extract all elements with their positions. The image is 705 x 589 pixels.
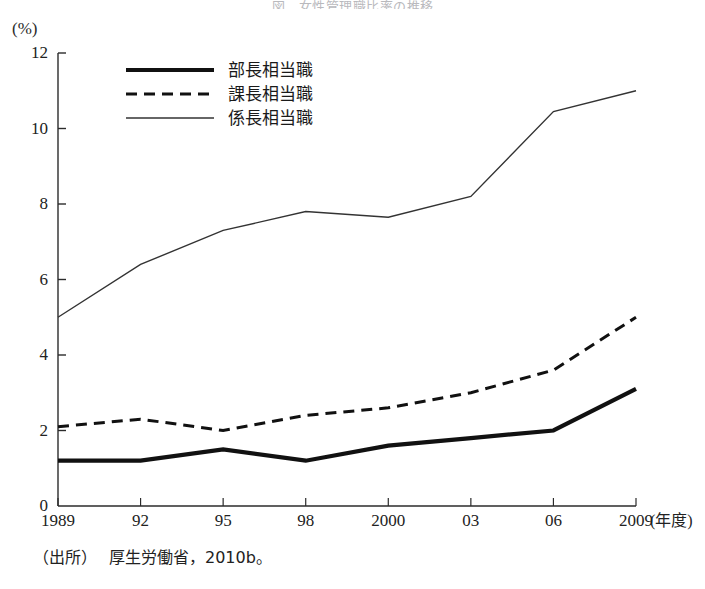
series-line xyxy=(58,389,636,461)
x-axis-ticks xyxy=(58,498,636,506)
legend-swatch-icon xyxy=(126,111,214,125)
legend-label: 部長相当職 xyxy=(228,60,313,80)
figure-container: 図 女性管理職比率の推移 (%) 024681012 1989929598200… xyxy=(0,0,705,589)
y-tick-label: 4 xyxy=(8,346,48,363)
legend-item: 課長相当職 xyxy=(126,82,366,106)
chart-series-layer xyxy=(58,91,636,461)
x-tick-label: 2009 xyxy=(619,512,653,529)
y-tick-label: 12 xyxy=(8,44,48,61)
x-tick-label: 98 xyxy=(297,512,314,529)
x-axis-unit-label: (年度) xyxy=(650,512,693,529)
y-tick-label: 8 xyxy=(8,195,48,212)
x-tick-label: 03 xyxy=(462,512,479,529)
y-axis-ticks xyxy=(58,53,66,431)
y-tick-label: 2 xyxy=(8,422,48,439)
chart-legend: 部長相当職課長相当職係長相当職 xyxy=(126,58,366,130)
legend-label: 係長相当職 xyxy=(228,108,313,128)
x-tick-label: 06 xyxy=(545,512,562,529)
legend-item: 係長相当職 xyxy=(126,106,366,130)
source-label: （出所） xyxy=(33,548,97,567)
x-tick-label: 95 xyxy=(215,512,232,529)
source-text: 厚生労働省，2010b。 xyxy=(109,548,272,567)
y-tick-label: 10 xyxy=(8,120,48,137)
x-tick-label: 2000 xyxy=(371,512,405,529)
x-tick-label: 92 xyxy=(132,512,149,529)
legend-label: 課長相当職 xyxy=(228,84,313,104)
x-tick-label: 1989 xyxy=(41,512,75,529)
legend-item: 部長相当職 xyxy=(126,58,366,82)
y-tick-label: 6 xyxy=(8,271,48,288)
legend-swatch-icon xyxy=(126,63,214,77)
legend-swatch-icon xyxy=(126,87,214,101)
series-line xyxy=(58,317,636,430)
source-note: （出所）厚生労働省，2010b。 xyxy=(33,548,272,568)
